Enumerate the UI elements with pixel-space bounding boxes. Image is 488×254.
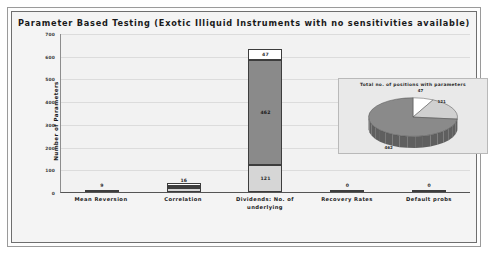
pie-slice-label: 47 <box>418 87 424 92</box>
pie-inset-canvas: 47121462 <box>339 91 487 149</box>
y-tick-label: 200 <box>45 145 55 150</box>
bar-value-label: 462 <box>260 110 270 115</box>
bar-stack[interactable]: 0 <box>330 190 364 192</box>
bar-segment[interactable] <box>412 190 446 192</box>
bar-total-label: 0 <box>346 183 349 188</box>
bar-stack[interactable]: 16 <box>167 183 201 192</box>
bar-segment[interactable]: 462 <box>248 60 282 165</box>
bar-segment[interactable] <box>167 188 201 192</box>
pie-slice-side <box>407 136 415 148</box>
x-axis-labels: Mean ReversionCorrelationDividends: No. … <box>60 196 470 211</box>
bar-group[interactable]: 9 <box>61 34 143 192</box>
bar-stack[interactable]: 9 <box>85 190 119 193</box>
pie-slice-side <box>392 134 399 147</box>
bar-segment[interactable]: 121 <box>248 165 282 192</box>
bar-segment[interactable] <box>167 183 201 186</box>
y-tick-label: 400 <box>45 100 55 105</box>
bar-segment[interactable] <box>85 190 119 193</box>
pie-slice-side <box>415 136 423 148</box>
pie-inset-panel: Total no. of positions with parameters 4… <box>338 78 488 154</box>
bar-segment[interactable] <box>330 190 364 192</box>
chart-frame-outer: Parameter Based Testing (Exotic Illiquid… <box>7 7 481 247</box>
pie-slice-label: 121 <box>438 98 446 103</box>
bar-group[interactable]: 16 <box>143 34 225 192</box>
plot-area: Number of Parameters 0100200300400500600… <box>36 34 470 208</box>
bar-total-label: 16 <box>180 178 186 183</box>
x-axis-label: Dividends: No. of underlying <box>224 196 306 211</box>
bar-segment[interactable] <box>167 186 201 189</box>
chart-title: Parameter Based Testing (Exotic Illiquid… <box>12 18 476 28</box>
y-tick-label: 0 <box>52 191 55 196</box>
bar-value-label: 121 <box>260 176 270 181</box>
bar-total-label: 0 <box>427 183 430 188</box>
y-tick-label: 700 <box>45 32 55 37</box>
y-tick-label: 600 <box>45 54 55 59</box>
bar-value-label: 47 <box>262 52 269 57</box>
y-tick-label: 500 <box>45 77 55 82</box>
y-tick-label: 100 <box>45 168 55 173</box>
x-axis-label: Default probs <box>388 196 470 211</box>
x-axis-label: Correlation <box>142 196 224 211</box>
pie-slice-label: 462 <box>385 145 393 150</box>
pie-slice-side <box>423 135 430 148</box>
x-axis-label: Recovery Rates <box>306 196 388 211</box>
bar-stack[interactable]: 0 <box>412 190 446 192</box>
y-tick-label: 300 <box>45 122 55 127</box>
pie-slice-side <box>386 132 393 145</box>
bar-total-label: 9 <box>100 183 103 188</box>
bar-stack[interactable]: 12146247 <box>248 49 282 192</box>
pie-slice-side <box>400 136 408 148</box>
pie-inset-title: Total no. of positions with parameters <box>339 82 487 87</box>
bar-group[interactable]: 12146247 <box>225 34 307 192</box>
chart-frame-inner: Parameter Based Testing (Exotic Illiquid… <box>11 11 477 243</box>
pie-slice-side <box>430 133 437 146</box>
pie-chart <box>339 91 487 149</box>
bar-segment[interactable]: 47 <box>248 49 282 60</box>
x-axis-label: Mean Reversion <box>60 196 142 211</box>
y-axis-ticks: 0100200300400500600700 <box>36 34 58 193</box>
